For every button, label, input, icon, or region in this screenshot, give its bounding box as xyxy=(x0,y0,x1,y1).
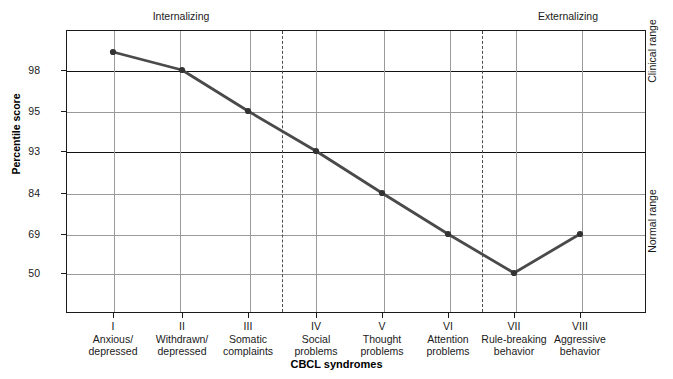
ytick-mark-69 xyxy=(61,234,66,235)
gridline-93 xyxy=(67,152,645,153)
gridline-cat-2 xyxy=(180,31,181,312)
ytick-label-69: 69 xyxy=(14,228,40,240)
gridline-cat-6 xyxy=(450,31,451,312)
chart-figure: Internalizing Externalizing Percentile s… xyxy=(0,0,673,379)
gridline-50 xyxy=(67,274,645,275)
gridline-cat-8 xyxy=(582,31,583,312)
xtick-mark-4 xyxy=(316,313,317,318)
xtick-mark-1 xyxy=(113,313,114,318)
ytick-mark-98 xyxy=(61,70,66,71)
gridline-95 xyxy=(67,112,645,113)
x-category-line1-8: Aggressive xyxy=(537,333,623,346)
ytick-label-50: 50 xyxy=(14,267,40,279)
divider-internalizing xyxy=(282,31,283,312)
xtick-mark-2 xyxy=(182,313,183,318)
ytick-label-93: 93 xyxy=(14,145,40,157)
plot-area xyxy=(66,30,646,313)
xtick-mark-6 xyxy=(448,313,449,318)
gridline-cat-3 xyxy=(250,31,251,312)
xtick-mark-7 xyxy=(514,313,515,318)
gridline-cat-7 xyxy=(516,31,517,312)
xtick-mark-3 xyxy=(248,313,249,318)
divider-externalizing xyxy=(482,31,483,312)
group-header-externalizing: Externalizing xyxy=(498,10,638,22)
gridline-cat-1 xyxy=(114,31,115,312)
range-label-normal: Normal range xyxy=(646,161,658,281)
gridline-69 xyxy=(67,235,645,236)
gridline-cat-4 xyxy=(316,31,317,312)
x-axis-title: CBCL syndromes xyxy=(0,358,673,370)
gridline-98 xyxy=(67,71,645,72)
gridline-cat-5 xyxy=(384,31,385,312)
ytick-mark-95 xyxy=(61,111,66,112)
ytick-label-98: 98 xyxy=(14,64,40,76)
x-category-line2-8: behavior xyxy=(537,345,623,358)
gridline-84 xyxy=(67,194,645,195)
xtick-mark-8 xyxy=(580,313,581,318)
ytick-label-84: 84 xyxy=(14,187,40,199)
xtick-mark-5 xyxy=(382,313,383,318)
ytick-mark-84 xyxy=(61,193,66,194)
ytick-label-95: 95 xyxy=(14,105,40,117)
range-label-clinical: Clinical range xyxy=(646,0,658,111)
gridlines-layer xyxy=(67,31,645,312)
ytick-mark-93 xyxy=(61,151,66,152)
ytick-mark-50 xyxy=(61,273,66,274)
group-header-internalizing: Internalizing xyxy=(111,10,251,22)
x-category-numeral-8: VIII xyxy=(537,320,623,333)
x-category-8: VIII Aggressive behavior xyxy=(537,320,623,358)
y-axis-title: Percentile score xyxy=(10,74,22,194)
